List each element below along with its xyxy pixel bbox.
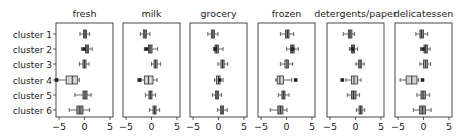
- panel-detergents-paper: detergents/paper−505: [314, 8, 397, 132]
- x-tick-label: 5: [309, 121, 315, 132]
- panel-fresh: fresh−505: [52, 8, 113, 132]
- panel-title: fresh: [73, 8, 97, 19]
- axes-frame: [190, 23, 247, 117]
- x-tick-label: −5: [186, 121, 200, 132]
- boxplot-figure: cluster 1cluster 2cluster 3cluster 4clus…: [0, 0, 470, 137]
- flier-point: [294, 78, 298, 82]
- panel-milk: milk−505: [119, 8, 180, 132]
- y-tick-label: cluster 6: [13, 106, 52, 116]
- x-tick-label: 0: [215, 121, 221, 132]
- panel-grocery: grocery−505: [186, 8, 247, 132]
- y-tick-label: cluster 4: [13, 76, 52, 86]
- y-tick-label: cluster 3: [13, 60, 52, 70]
- panel-title: grocery: [200, 8, 237, 19]
- x-tick-label: 5: [378, 121, 384, 132]
- x-tick-label: −5: [391, 121, 405, 132]
- panel-frozen: frozen−505: [254, 8, 315, 132]
- x-tick-label: 0: [352, 121, 358, 132]
- x-tick-label: 5: [107, 121, 113, 132]
- panel-title: delicatessen: [394, 8, 454, 19]
- flier-point: [145, 47, 149, 51]
- x-tick-label: 0: [283, 121, 289, 132]
- x-tick-label: 5: [174, 121, 180, 132]
- flier-point: [421, 78, 425, 82]
- flier-point: [421, 47, 425, 51]
- x-tick-label: −5: [52, 121, 66, 132]
- flier-point: [137, 78, 141, 82]
- flier-point: [218, 78, 222, 82]
- panel-title: detergents/paper: [314, 8, 397, 19]
- flier-point: [351, 47, 355, 51]
- panel-delicatessen: delicatessen−505: [391, 8, 453, 132]
- flier-point: [291, 47, 295, 51]
- x-tick-label: −5: [323, 121, 337, 132]
- panel-title: frozen: [272, 8, 302, 19]
- x-tick-label: 0: [420, 121, 426, 132]
- x-tick-label: 0: [81, 121, 87, 132]
- y-tick-label: cluster 2: [13, 45, 52, 55]
- axes-frame: [327, 23, 384, 117]
- flier-point: [55, 78, 59, 82]
- x-tick-label: 5: [446, 121, 452, 132]
- y-tick-label: cluster 1: [13, 30, 52, 40]
- flier-point: [82, 47, 86, 51]
- y-tick-label: cluster 5: [13, 91, 52, 101]
- flier-point: [340, 78, 344, 82]
- axes-frame: [123, 23, 180, 117]
- x-tick-label: −5: [254, 121, 268, 132]
- panel-title: milk: [141, 8, 162, 19]
- x-tick-label: 5: [241, 121, 247, 132]
- x-tick-label: 0: [148, 121, 154, 132]
- flier-point: [214, 47, 218, 51]
- x-tick-label: −5: [119, 121, 133, 132]
